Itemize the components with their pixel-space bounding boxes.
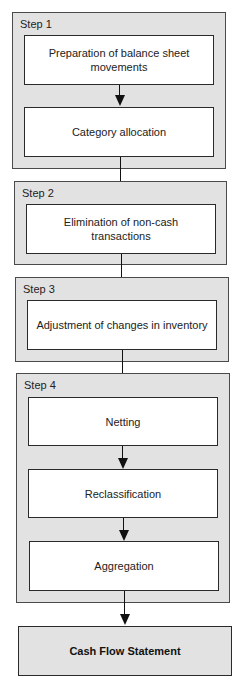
arrow-head-icon [118, 458, 128, 469]
arrow-line [124, 591, 125, 616]
box-category-allocation: Category allocation [24, 107, 214, 157]
box-adjustment-of-changes-in-inventory: Adjustment of changes in inventory [27, 300, 217, 350]
step-3-label: Step 3 [23, 283, 55, 295]
arrow-line [122, 446, 123, 458]
step-2-label: Step 2 [22, 187, 54, 199]
step-4-label: Step 4 [24, 379, 56, 391]
box-aggregation: Aggregation [29, 541, 219, 591]
arrow-head-icon [115, 95, 125, 106]
step-1-label: Step 1 [20, 18, 52, 30]
box-netting: Netting [28, 397, 218, 446]
arrow-head-icon [119, 530, 129, 541]
arrow-line [119, 85, 120, 95]
box-elimination-of-non-cash-transactions: Elimination of non-cash transactions [26, 204, 216, 254]
arrow-line [123, 518, 124, 530]
box-preparation-of-balance-sheet-movements: Preparation of balance sheet movements [24, 35, 214, 85]
arrow-head-icon [120, 614, 130, 625]
box-reclassification: Reclassification [28, 469, 218, 518]
cash-flow-statement-box: Cash Flow Statement [18, 626, 232, 676]
